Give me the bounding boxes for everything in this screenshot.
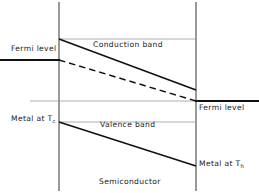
fermi-level-dashed-line — [59, 60, 196, 101]
metal-cold-prefix: Metal at T — [11, 114, 53, 123]
metal-hot-label: Metal at Th — [199, 160, 244, 168]
metal-hot-subscript: h — [241, 163, 244, 169]
fermi-level-right-label: Fermi level — [199, 104, 244, 112]
valence-band-label: Valence band — [100, 121, 155, 129]
metal-hot-prefix: Metal at T — [199, 159, 241, 168]
metal-cold-subscript: c — [53, 118, 56, 124]
metal-cold-label: Metal at Tc — [11, 115, 56, 123]
conduction-band-label: Conduction band — [93, 41, 163, 49]
band-diagram: Fermi level Fermi level Conduction band … — [0, 0, 259, 193]
semiconductor-label: Semiconductor — [99, 178, 161, 186]
fermi-level-left-label: Fermi level — [11, 45, 56, 53]
